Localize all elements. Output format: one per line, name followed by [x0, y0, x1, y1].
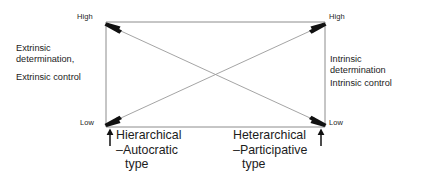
type-label-heterarchical-line-2: –Participative: [233, 143, 307, 158]
side-label-extrinsic-spacer: [16, 65, 81, 72]
axis-label-low-right: Low: [329, 119, 343, 128]
side-label-extrinsic-control: Extrinsic control: [16, 72, 81, 83]
axis-label-high-left: High: [77, 13, 93, 22]
side-label-intrinsic-line-2: determination: [330, 65, 392, 76]
diagonal-line-up: [110, 26, 321, 123]
type-label-hierarchical-line-1: Hierarchical: [116, 128, 181, 143]
axis-label-low-left: Low: [80, 119, 94, 128]
side-label-extrinsic-line-2: determination,: [16, 54, 81, 65]
side-label-intrinsic-control: Intrinsic control: [330, 78, 392, 89]
side-label-intrinsic: Intrinsic determination Intrinsic contro…: [330, 54, 392, 89]
type-label-heterarchical-line-3: type: [233, 157, 307, 172]
type-label-hierarchical: Hierarchical –Autocratic type: [116, 128, 181, 172]
diagram-graphics: [0, 0, 429, 191]
up-arrow-marker-right: [318, 129, 325, 147]
diagram-canvas: High High Low Low Extrinsic determinatio…: [0, 0, 429, 191]
up-arrow-marker-left: [107, 129, 114, 147]
arrowhead-top-left: [105, 23, 123, 34]
diagonal-line-down: [110, 26, 321, 123]
side-label-extrinsic: Extrinsic determination, Extrinsic contr…: [16, 43, 81, 83]
type-label-heterarchical: Heterarchical –Participative type: [233, 128, 307, 172]
arrowhead-bottom-left: [105, 116, 123, 127]
axis-label-high-right: High: [329, 13, 345, 22]
type-label-hierarchical-line-3: type: [116, 157, 181, 172]
arrowhead-bottom-right: [309, 116, 327, 127]
arrowhead-top-right: [309, 23, 327, 34]
side-label-intrinsic-line-1: Intrinsic: [330, 54, 392, 65]
side-label-extrinsic-line-1: Extrinsic: [16, 43, 81, 54]
type-label-heterarchical-line-1: Heterarchical: [233, 128, 307, 143]
type-label-hierarchical-line-2: –Autocratic: [116, 143, 181, 158]
